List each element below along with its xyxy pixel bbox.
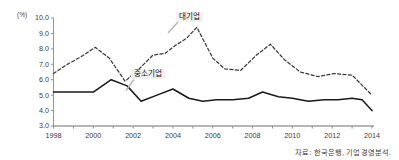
chart-axes (51, 18, 374, 129)
svg-text:7.0: 7.0 (39, 60, 49, 69)
svg-text:2006: 2006 (205, 131, 221, 140)
svg-text:2000: 2000 (85, 131, 101, 140)
x-axis-tick-labels: 199820002002200420062008201020122014 (46, 131, 381, 140)
svg-text:2012: 2012 (324, 131, 340, 140)
series-label-sme: 중소기업 (131, 69, 165, 79)
series-line-sme (54, 80, 373, 111)
svg-text:6.0: 6.0 (39, 75, 49, 84)
source-note: 자료: 한국은행, 기업경영분석. (295, 147, 391, 157)
svg-text:8.0: 8.0 (39, 44, 49, 53)
svg-text:2002: 2002 (125, 131, 141, 140)
svg-text:2004: 2004 (165, 131, 181, 140)
chart-figure: 3.04.05.06.07.08.09.010.0 19982000200220… (0, 0, 399, 160)
leader-line-large-enterprise (169, 22, 179, 33)
svg-text:5.0: 5.0 (39, 91, 49, 100)
svg-text:1998: 1998 (46, 131, 62, 140)
y-axis-tick-labels: 3.04.05.06.07.08.09.010.0 (35, 13, 49, 130)
svg-text:2014: 2014 (364, 131, 380, 140)
svg-text:9.0: 9.0 (39, 29, 49, 38)
svg-text:2008: 2008 (245, 131, 261, 140)
line-chart-plot: 3.04.05.06.07.08.09.010.0 19982000200220… (0, 0, 399, 160)
svg-text:2010: 2010 (284, 131, 300, 140)
series-label-large-enterprise: 대기업 (176, 12, 203, 22)
chart-series-lines (54, 27, 373, 110)
svg-text:10.0: 10.0 (35, 13, 49, 22)
y-axis-unit-label: (%) (17, 11, 27, 18)
series-line-large-enterprise (54, 27, 373, 95)
svg-text:4.0: 4.0 (39, 106, 49, 115)
svg-text:3.0: 3.0 (39, 121, 49, 130)
